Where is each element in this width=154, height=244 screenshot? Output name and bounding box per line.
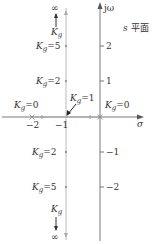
imag-axis-label: jω xyxy=(104,4,114,13)
imag-axis-arrow-icon xyxy=(98,2,103,9)
kg5-lower-label: Kg=5 xyxy=(32,183,57,192)
infinity-top-label: ∞ xyxy=(51,4,59,13)
kg5-upper-label: Kg=5 xyxy=(36,42,61,51)
kg1-label: Kg=1 xyxy=(70,94,95,103)
kg2-lower-label: Kg=2 xyxy=(32,148,57,157)
imag-tick-2: 2 xyxy=(106,42,112,51)
s-plane-label: s 平面 xyxy=(123,24,149,33)
imag-tick-neg1: −1 xyxy=(106,148,119,157)
real-tick-neg2: −2 xyxy=(26,121,39,130)
infinity-bottom-label: ∞ xyxy=(51,233,59,242)
kg0-right-label: Kg=0 xyxy=(105,101,130,110)
kg-top-label: Kg xyxy=(51,28,62,37)
real-axis-label: σ xyxy=(137,120,143,129)
kg2-upper-label: Kg=2 xyxy=(36,77,61,86)
imag-tick-neg2: −2 xyxy=(106,183,119,192)
kg-bottom-label: Kg xyxy=(51,205,62,214)
imag-tick-1: 1 xyxy=(106,77,112,86)
kg0-left-label: Kg=0 xyxy=(14,101,39,110)
real-tick-neg1: −1 xyxy=(55,121,68,130)
root-locus-plot xyxy=(0,0,154,244)
